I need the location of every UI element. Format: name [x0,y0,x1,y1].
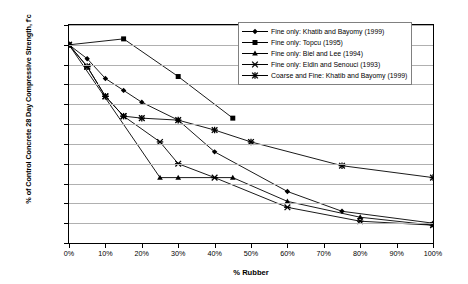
x-tick-mark [251,244,252,248]
gridline [69,203,433,204]
x-tick-mark [324,244,325,248]
gridline [69,124,433,125]
compressive-strength-chart: % of Control Concrete 28 Day Compressive… [0,0,468,284]
y-tick-mark [64,124,68,125]
data-point-marker [175,117,182,124]
y-tick-mark [64,203,68,204]
gridline [69,223,433,224]
gridline [69,164,433,165]
gridline [69,144,433,145]
gridline [69,104,433,105]
legend-item-label: Fine only: Eldin and Senouci (1993) [268,59,380,70]
x-tick-mark [215,244,216,248]
y-tick-mark [64,84,68,85]
y-tick-mark [64,45,68,46]
x-axis-title: % Rubber [68,268,434,277]
y-axis-title-text: % of Control Concrete 28 Day Compressive… [24,14,33,203]
data-point-marker [102,93,109,100]
data-point-marker [284,204,291,210]
legend-item-label: Coarse and Fine: Khatib and Bayomy (1999… [268,70,407,81]
x-tick-mark [69,244,70,248]
data-point-marker [121,88,126,93]
x-tick-label: 100% [408,249,458,258]
x-tick-mark [360,244,361,248]
y-tick-mark [64,184,68,185]
data-point-marker [211,127,218,134]
x-tick-mark [105,244,106,248]
x-tick-mark [142,244,143,248]
y-axis-title: % of Control Concrete 28 Day Compressive… [24,4,34,214]
chart-legend: Fine only: Khatib and Bayomy (1999)Fine … [238,22,412,85]
legend-item-label: Fine only: Khatib and Bayomy (1999) [268,26,384,37]
square-icon [242,37,268,48]
data-point-marker [230,116,235,121]
x-tick-mark [433,244,434,248]
legend-item: Fine only: Biel and Lee (1994) [242,48,407,59]
data-point-marker [121,36,126,41]
gridline [69,184,433,185]
y-tick-mark [64,25,68,26]
x-tick-mark [397,244,398,248]
x-tick-mark [178,244,179,248]
legend-item: Fine only: Eldin and Senouci (1993) [242,59,407,70]
y-tick-mark [64,243,68,244]
y-tick-mark [64,164,68,165]
star-icon [242,70,268,81]
x-axis-title-text: % Rubber [233,268,268,277]
data-point-marker [211,175,218,181]
legend-item: Fine only: Topcu (1995) [242,37,407,48]
diamond-icon [242,26,268,37]
x-tick-mark [287,244,288,248]
y-tick-mark [64,144,68,145]
data-point-marker [430,174,433,181]
legend-item-label: Fine only: Topcu (1995) [268,37,343,48]
legend-item-label: Fine only: Biel and Lee (1994) [268,48,363,59]
legend-item: Coarse and Fine: Khatib and Bayomy (1999… [242,70,407,81]
y-tick-mark [64,65,68,66]
triangle-icon [242,48,268,59]
y-tick-mark [64,104,68,105]
data-point-marker [139,115,146,122]
data-point-marker [176,74,181,79]
data-point-marker [285,189,290,194]
legend-item: Fine only: Khatib and Bayomy (1999) [242,26,407,37]
y-tick-mark [64,223,68,224]
cross-icon [242,59,268,70]
data-series [69,36,235,120]
data-point-marker [120,113,127,120]
